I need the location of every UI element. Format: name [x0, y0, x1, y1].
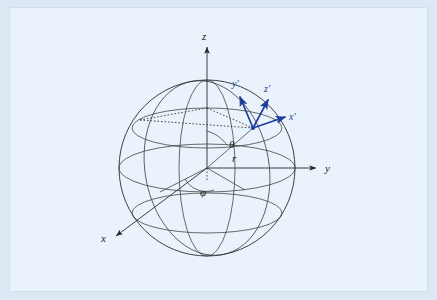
- azimuth-projection-line: [207, 168, 245, 190]
- y-prime-vector: [240, 97, 253, 128]
- axis-x: [116, 168, 207, 236]
- spherical-coordinate-diagram: z y x θ r φ y′ z′ x′: [0, 0, 437, 300]
- lower-latitude-circle: [132, 193, 282, 233]
- label-phi: φ: [200, 186, 206, 198]
- frame-origin-dot: [251, 126, 255, 130]
- label-theta: θ: [229, 138, 235, 150]
- axis-label-x: x: [100, 232, 106, 244]
- axis-label-y: y: [324, 162, 330, 174]
- dotted-chord: [140, 120, 253, 128]
- label-y-prime: y′: [231, 78, 239, 89]
- figure-root: z y x θ r φ y′ z′ x′: [0, 0, 437, 300]
- theta-arc: [207, 131, 227, 145]
- label-x-prime: x′: [288, 111, 296, 122]
- label-z-prime: z′: [263, 83, 271, 94]
- label-r: r: [232, 152, 237, 164]
- axis-label-z: z: [201, 30, 207, 42]
